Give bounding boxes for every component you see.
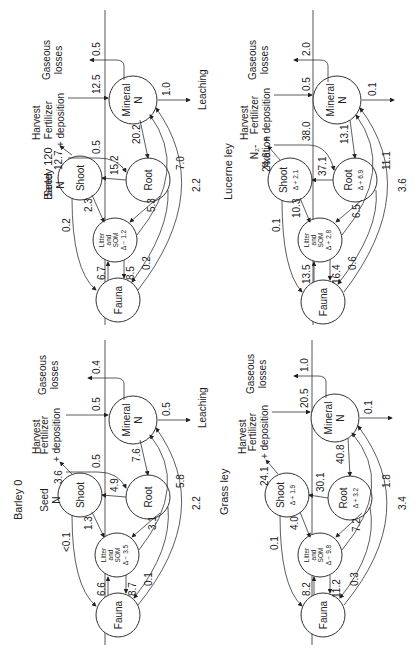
shoot-to-fauna-value: 0.1 [271, 218, 282, 232]
deposition-label: + deposition [51, 408, 62, 462]
fauna-to-mineral-value: 2.2 [191, 496, 202, 510]
fertilizer-value: 20.5 [299, 388, 310, 408]
root-to-litter-value: 6.5 [351, 204, 362, 218]
root-delta: Δ + 6.9 [357, 169, 364, 190]
shoot-to-litter-value: 1.3 [83, 516, 94, 530]
seed-label: Seed [39, 488, 50, 511]
root-to-fauna-value: 0.2 [141, 256, 152, 270]
harvest-label: Harvest [31, 419, 42, 454]
root-label: Root [143, 486, 154, 507]
litter-delta: Δ − 9.8 [325, 544, 332, 565]
leaching-value: 0.1 [367, 82, 378, 96]
shoot-to-litter-arrow [300, 512, 310, 537]
shoot-delta: Δ + 1.9 [289, 484, 296, 505]
litter-to-fauna-value: 8.7 [127, 582, 138, 596]
panel-title: Lucerne ley [222, 143, 234, 200]
shoot-label: Shoot [275, 482, 286, 508]
litter-label: Litter [303, 547, 310, 562]
leaching-label: Leaching [197, 69, 208, 110]
fauna-label: Fauna [318, 287, 329, 316]
fauna-label: Fauna [113, 285, 124, 314]
harvest-label: Harvest [239, 105, 250, 140]
litter-delta: Δ + 2.8 [325, 229, 332, 250]
root-to-fauna-value: 0.1 [143, 572, 154, 586]
fertilizer-label: Fertilizer [249, 95, 260, 134]
shoot-delta: Δ + 2.1 [292, 169, 299, 190]
leaching-value: 1.0 [161, 82, 172, 96]
mineral-label-2: N [133, 96, 144, 103]
gaseous-value: 0.4 [91, 360, 102, 374]
panel-grass-ley: Grass ley Mineral N Root Δ + 3.2 Shoot Δ… [210, 320, 418, 662]
root-delta: Δ + 3.2 [352, 487, 359, 508]
litter-delta: Δ − 1.2 [120, 229, 127, 250]
mineral-to-root-value: 20.2 [131, 124, 142, 144]
shoot-label: Shoot [75, 165, 86, 191]
litter-delta: Δ − 3.5 [122, 544, 129, 565]
shoot-to-litter-value: 4.0 [289, 516, 300, 530]
root-label: Root [338, 487, 349, 508]
litter-to-fauna-value: 16.4 [331, 264, 342, 284]
deposition-label: + deposition [261, 88, 272, 142]
harvest-value: 12.7 [53, 150, 64, 170]
fauna-to-mineral-value: 3.4 [397, 496, 408, 510]
harvest-label: Harvest [31, 105, 42, 140]
fauna-to-mineral-value: 2.2 [191, 178, 202, 192]
shoot-node [265, 473, 309, 517]
fauna-to-litter-value: 8.2 [301, 582, 312, 596]
losses-label: losses [53, 46, 64, 74]
shoot-label: Shoot [278, 167, 289, 193]
flow-diagram: Barley 120 Mineral N Root Shoot Litter a… [0, 0, 210, 330]
litter-label-2: and [105, 234, 112, 245]
mineral-to-root-value: 7.6 [131, 448, 142, 462]
gaseous-value: 1.0 [299, 358, 310, 372]
litter-label: Litter [98, 232, 105, 247]
litter-label: Litter [100, 547, 107, 562]
shoot-label: Shoot [75, 482, 86, 508]
panel-title: Barley 0 [12, 480, 24, 520]
root-node [333, 158, 377, 202]
mineral-to-root-value: 13.1 [339, 124, 350, 144]
litter-label-3: SOM [317, 233, 324, 248]
leaching-label: Leaching [197, 387, 208, 428]
harvest-value: 24.1 [259, 466, 270, 486]
litter-label-3: SOM [112, 233, 119, 248]
root-to-shoot-value: 15.2 [109, 155, 120, 175]
deposition-label: + deposition [55, 93, 66, 147]
fauna-to-litter-value: 6.7 [96, 266, 107, 280]
root-to-shoot-value: 37.1 [317, 156, 328, 176]
root-label: Root [143, 169, 154, 190]
litter-label: Litter [303, 232, 310, 247]
panel-lucerne-ley: Lucerne ley Mineral N Root Δ + 6.9 Shoot… [210, 0, 418, 330]
root-to-shoot-arrow [102, 178, 126, 180]
litter-label-3: SOM [317, 548, 324, 563]
gaseous-label: Gaseous [247, 40, 258, 80]
gaseous-label: Gaseous [245, 354, 256, 394]
root-to-fauna-value: 0.6 [347, 256, 358, 270]
losses-label: losses [259, 46, 270, 74]
leaching-value: 0.1 [363, 400, 374, 414]
shoot-node [268, 158, 312, 202]
fertilizer-value: 0.5 [301, 77, 312, 91]
mineral-label: Mineral [323, 402, 334, 435]
gaseous-value: 0.5 [91, 42, 102, 56]
harvest-value: 3.6 [53, 470, 64, 484]
losses-label: losses [49, 361, 60, 389]
fertilizer-label: Fertilizer [43, 100, 54, 139]
shoot-to-fauna-value: 0.2 [61, 218, 72, 232]
gaseous-label: Gaseous [37, 355, 48, 395]
fertilizer-value: 0.5 [91, 397, 102, 411]
mineral-label: Mineral [121, 84, 132, 117]
root-to-shoot-value: 4.9 [109, 478, 120, 492]
root-to-fauna-value: 0.3 [349, 572, 360, 586]
harvest-label: Harvest [237, 419, 248, 454]
flow-diagram: Barley 0 Mineral N Root Shoot Litter and… [0, 320, 210, 650]
mineral-label-2: N [335, 414, 346, 421]
fauna-to-mineral-value: 3.6 [397, 178, 408, 192]
panel-barley-120: Barley 120 Mineral N Root Shoot Litter a… [0, 0, 210, 330]
litter-label-2: and [310, 549, 317, 560]
panel-title: Grass ley [218, 468, 230, 515]
mineral-to-root-value: 40.8 [335, 444, 346, 464]
seed-value: 0.5 [91, 140, 102, 154]
root-to-litter-value: 5.3 [146, 198, 157, 212]
fauna-to-litter-value: 6.6 [96, 582, 107, 596]
